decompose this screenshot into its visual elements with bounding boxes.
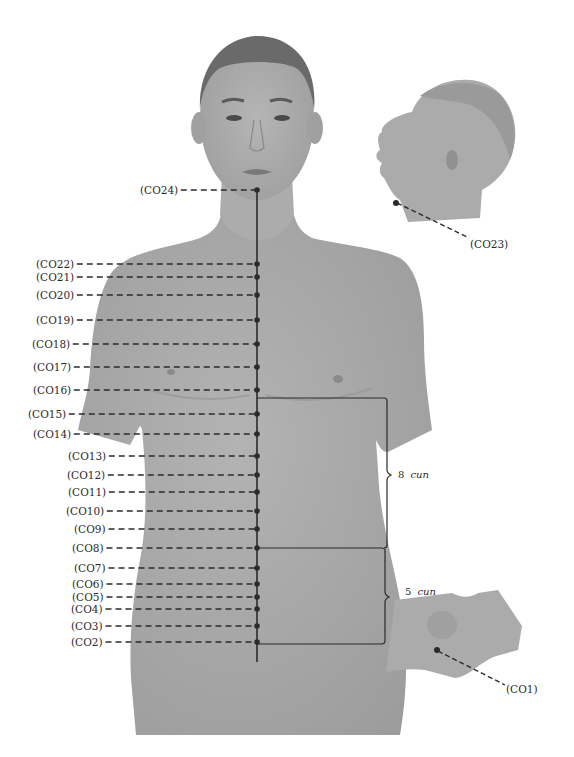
point-dot	[254, 453, 260, 459]
point-label: (CO13)	[68, 450, 106, 462]
point-dot	[254, 606, 260, 612]
point-label: (CO2)	[71, 636, 103, 648]
point-label: (CO18)	[32, 338, 70, 350]
point-label: (CO12)	[67, 469, 105, 481]
right-ear	[307, 112, 323, 144]
point-dot	[254, 489, 260, 495]
point-dot-co1	[434, 647, 440, 653]
point-label: (CO7)	[74, 562, 106, 574]
perineum-silhouette	[386, 590, 522, 678]
acupoint-figure: (CO23) (CO1) (CO24)(CO22)(CO21)(CO20)(CO…	[0, 0, 574, 757]
point-label: (CO6)	[72, 578, 104, 590]
point-dot	[254, 623, 260, 629]
point-dot	[254, 431, 260, 437]
point-label: (CO10)	[66, 505, 104, 517]
point-label: (CO11)	[68, 486, 106, 498]
point-label: (CO20)	[36, 289, 74, 301]
point-dot	[254, 341, 260, 347]
measure-8cun: 8cun	[398, 469, 429, 480]
point-label: (CO22)	[36, 258, 74, 270]
point-dot	[254, 594, 260, 600]
point-label: (CO17)	[33, 361, 71, 373]
side-head-illustration: (CO23)	[376, 80, 515, 250]
point-label: (CO9)	[74, 523, 106, 535]
left-eye	[226, 115, 242, 121]
point-dot	[254, 411, 260, 417]
point-dot	[254, 387, 260, 393]
point-dot	[254, 508, 260, 514]
perineum-illustration: (CO1)	[386, 590, 538, 695]
point-label: (CO5)	[72, 591, 104, 603]
point-label: (CO15)	[28, 408, 66, 420]
point-dot	[254, 317, 260, 323]
point-label: (CO4)	[71, 603, 103, 615]
point-dot-co23	[393, 200, 399, 206]
point-dot	[254, 274, 260, 280]
measure-5cun: 5cun	[405, 586, 436, 597]
left-ear	[191, 112, 207, 144]
point-label-co1: (CO1)	[506, 683, 538, 695]
point-dot	[254, 187, 260, 193]
right-eye	[274, 115, 290, 121]
point-dot	[254, 261, 260, 267]
point-dot	[254, 472, 260, 478]
point-label: (CO19)	[36, 314, 74, 326]
point-dot	[254, 565, 260, 571]
point-label: (CO24)	[140, 184, 178, 196]
point-dot	[254, 292, 260, 298]
point-label: (CO3)	[71, 620, 103, 632]
point-label-co23: (CO23)	[470, 238, 508, 250]
point-label: (CO14)	[33, 428, 71, 440]
point-label: (CO21)	[36, 271, 74, 283]
point-dot	[254, 581, 260, 587]
point-label: (CO8)	[72, 542, 104, 554]
point-label: (CO16)	[33, 384, 71, 396]
torso-silhouette	[78, 205, 432, 735]
point-dot	[254, 364, 260, 370]
point-dot	[254, 526, 260, 532]
